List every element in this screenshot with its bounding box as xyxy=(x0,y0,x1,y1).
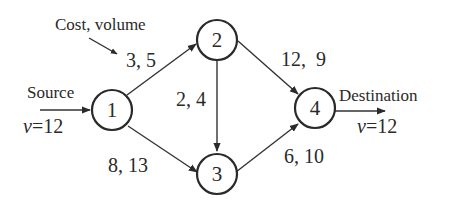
annotation-arrow xyxy=(89,38,117,54)
node-2: 2 xyxy=(197,20,237,60)
node-4-label: 4 xyxy=(310,96,321,120)
edge-1-2-label: 3, 5 xyxy=(126,49,156,71)
edge-1-3-label: 8, 13 xyxy=(108,154,148,176)
node-4: 4 xyxy=(295,88,335,128)
node-1-label: 1 xyxy=(107,98,118,122)
edge-3-4-label: 6, 10 xyxy=(284,145,324,167)
annotation-label: Cost, volume xyxy=(55,15,146,34)
edge-2-4-label: 12, 9 xyxy=(281,48,326,70)
node-2-label: 2 xyxy=(212,28,223,52)
node-3-label: 3 xyxy=(212,162,223,186)
source-flow-label: v=12 xyxy=(23,115,63,137)
node-3: 3 xyxy=(197,154,237,194)
node-1: 1 xyxy=(92,90,132,130)
source-label: Source xyxy=(27,83,74,102)
edge-2-3-label: 2, 4 xyxy=(176,88,206,110)
destination-label: Destination xyxy=(339,86,418,105)
destination-flow-label: v=12 xyxy=(357,115,397,137)
flow-network-diagram: 1 2 3 4 3, 5 8, 13 2, 4 12, 9 6, 10 Cost… xyxy=(0,0,461,208)
